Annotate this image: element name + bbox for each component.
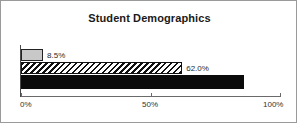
axis-label-50: 50% [142, 100, 158, 109]
axis-label-0: 0% [20, 100, 32, 109]
value-axis-line [21, 96, 281, 97]
bar-value-label-series-1: 8.5% [47, 51, 65, 60]
bar-value-label-series-2: 62.0% [186, 64, 209, 73]
bar-series-1 [21, 49, 43, 61]
axis-tick-50 [151, 93, 152, 96]
bar-series-2 [21, 62, 182, 74]
plot-area: 8.5% 62.0% 85.9% [21, 45, 281, 96]
chart-title: Student Demographics [1, 12, 297, 24]
axis-tick-100 [280, 93, 281, 96]
chart-container: Student Demographics 8.5% 62.0% 85.9% 0%… [0, 0, 297, 123]
axis-tick-0 [21, 93, 22, 96]
axis-label-100: 100% [263, 100, 283, 109]
bar-series-3 [21, 75, 244, 89]
